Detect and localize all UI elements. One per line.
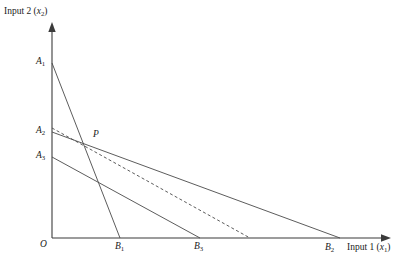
point-label-a1: A1 [36,57,45,67]
point-label-b1: B1 [115,242,124,252]
line-a3-b3 [52,157,200,238]
line-dashed-isocost [52,128,250,238]
x-axis-arrowhead [381,234,391,241]
y-axis-title: Input 2 (x2) [4,7,48,17]
origin-label: O [40,240,47,250]
y-axis-arrowhead [48,22,55,32]
line-a1-b1 [52,63,120,238]
x-axis-title: Input 1 (x1) [347,243,391,253]
point-label-p: P [93,130,99,140]
point-label-a2: A2 [36,126,45,136]
isocost-diagram-figure: Input 2 (x2) Input 1 (x1) O A1 A2 A3 B1 … [0,0,397,264]
point-label-b2: B2 [325,243,334,253]
line-a2-b2 [52,132,340,238]
diagram-canvas [0,0,397,264]
point-label-a3: A3 [36,151,45,161]
point-label-b3: B3 [194,242,203,252]
